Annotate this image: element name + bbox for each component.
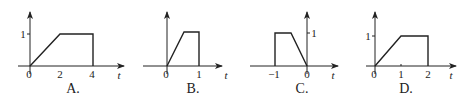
- option-caption: D.: [399, 81, 413, 96]
- graph-b: 0 1 t B.: [143, 12, 228, 96]
- x-tick-label: −1: [268, 68, 280, 80]
- x-tick-label: 2: [57, 68, 63, 80]
- option-caption: A.: [66, 81, 80, 96]
- graph-c-curve: [275, 33, 307, 66]
- y-tick-label: 1: [365, 30, 371, 42]
- x-tick-label: 2: [425, 68, 431, 80]
- option-caption: C.: [296, 81, 309, 96]
- x-tick-label: 0: [26, 68, 32, 80]
- x-tick-label: 1: [196, 68, 202, 80]
- graph-a-curve: [30, 34, 93, 66]
- y-tick-label: 1: [311, 27, 317, 39]
- t-axis-label: t: [449, 69, 453, 81]
- graph-d: 1 0 1 2 t D.: [365, 12, 456, 96]
- option-caption: B.: [187, 81, 200, 96]
- x-tick-label: 0: [163, 68, 169, 80]
- graph-c: 1 −1 0 t C.: [250, 12, 338, 96]
- t-axis-label: t: [224, 69, 228, 81]
- x-tick-label: 1: [398, 68, 404, 80]
- graph-d-curve: [375, 36, 428, 66]
- x-tick-label: 0: [304, 68, 310, 80]
- graph-a: 1 0 2 4 t A.: [18, 12, 124, 96]
- graph-options-diagram: 1 0 2 4 t A. 0 1 t B. 1 −1 0 t C. 1 0 1: [0, 0, 468, 97]
- t-axis-label: t: [331, 69, 335, 81]
- x-tick-label: 0: [371, 68, 377, 80]
- t-axis-label: t: [117, 69, 121, 81]
- x-tick-label: 4: [89, 68, 95, 80]
- graph-b-curve: [167, 32, 199, 66]
- y-tick-label: 1: [20, 28, 26, 40]
